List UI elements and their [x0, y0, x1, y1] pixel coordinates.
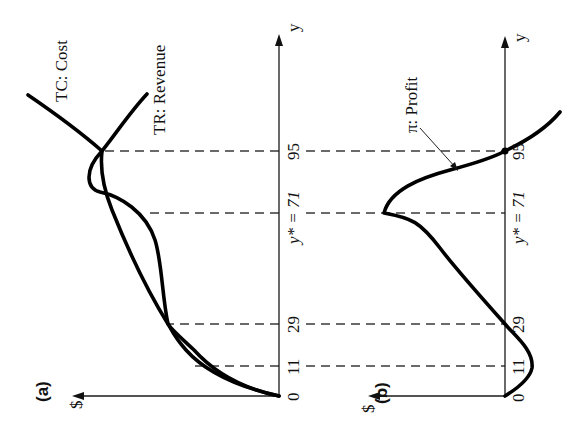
total-cost-curve — [28, 95, 279, 396]
tick-b-95: 95 — [509, 143, 528, 160]
tick-b-29: 29 — [509, 316, 528, 333]
profit-label-pointer — [420, 128, 456, 168]
panel-b-label: (b) — [372, 382, 391, 404]
panel-a-label: (a) — [33, 381, 52, 402]
tick-b-11: 11 — [509, 359, 528, 375]
cost-curve-label: TC: Cost — [52, 40, 71, 102]
tick-b-ystar: y* = 71 — [509, 191, 528, 246]
tick-a-0: 0 — [284, 393, 303, 402]
dollar-axis-label-b: $ — [359, 405, 378, 414]
output-axis-arrow-b — [501, 36, 509, 48]
dollar-axis-label-a: $ — [67, 401, 86, 410]
revenue-curve-label: TR: Revenue — [150, 45, 169, 135]
profit-maximization-figure: (a) $ y 0 11 29 y* = 71 95 TC: Cost TR: … — [0, 0, 586, 442]
tick-a-ystar: y* = 71 — [284, 191, 303, 246]
tick-a-95: 95 — [284, 143, 303, 160]
profit-curve — [384, 112, 560, 396]
panel-b: (b) $ y 0 11 29 y* = 71 95 π: Profit — [306, 33, 560, 413]
tick-a-29: 29 — [284, 316, 303, 333]
tick-b-0: 0 — [509, 394, 528, 403]
output-axis-label-a: y — [284, 23, 303, 32]
dollar-axis-arrow-a — [72, 392, 84, 400]
profit-zero-point-95 — [502, 148, 509, 155]
total-revenue-curve — [89, 94, 279, 396]
profit-curve-label: π: Profit — [402, 76, 421, 133]
output-axis-label-b: y — [510, 33, 529, 42]
panel-a: (a) $ y 0 11 29 y* = 71 95 TC: Cost TR: … — [28, 23, 303, 409]
tick-a-11: 11 — [284, 359, 303, 375]
output-axis-arrow-a — [275, 34, 283, 46]
